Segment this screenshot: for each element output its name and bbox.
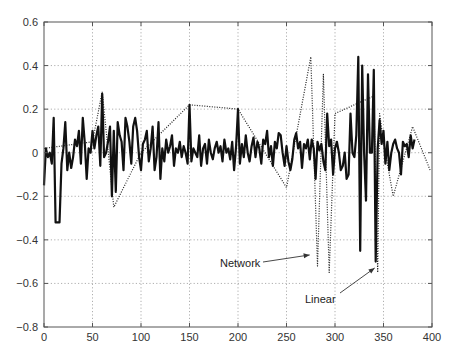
y-tick-labels: −0.8−0.6−0.4−0.200.20.40.6 <box>16 16 38 333</box>
annotation-linear-label: Linear <box>305 293 336 305</box>
x-tick-label: 50 <box>86 331 98 343</box>
y-tick-label: −0.6 <box>16 277 38 289</box>
y-tick-label: 0.2 <box>23 103 38 115</box>
x-tick-label: 250 <box>277 331 295 343</box>
y-tick-label: −0.4 <box>16 234 38 246</box>
annotation-arrowhead-network <box>303 253 309 258</box>
y-tick-label: 0 <box>32 147 38 159</box>
x-tick-label: 150 <box>180 331 198 343</box>
series-layer <box>44 0 430 273</box>
y-tick-label: −0.2 <box>16 190 38 202</box>
series-line-network <box>44 57 415 262</box>
chart: 050100150200250300350400 −0.8−0.6−0.4−0.… <box>0 0 455 363</box>
x-tick-label: 400 <box>423 331 441 343</box>
x-tick-labels: 050100150200250300350400 <box>41 331 441 343</box>
annotation-arrowhead-linear <box>368 268 374 274</box>
x-tick-label: 350 <box>374 331 392 343</box>
x-tick-label: 200 <box>229 331 247 343</box>
x-tick-label: 300 <box>326 331 344 343</box>
y-tick-label: 0.4 <box>23 60 38 72</box>
x-tick-label: 100 <box>132 331 150 343</box>
annotation-network-label: Network <box>220 257 261 269</box>
annotation-arrow-linear <box>340 268 375 293</box>
y-tick-label: −0.8 <box>16 321 38 333</box>
y-tick-label: 0.6 <box>23 16 38 28</box>
x-tick-label: 0 <box>41 331 47 343</box>
annotation-layer: Network Linear <box>220 253 375 305</box>
